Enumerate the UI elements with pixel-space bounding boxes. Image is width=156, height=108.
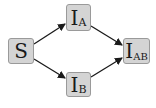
edge-ia-to-iab	[91, 26, 122, 45]
node-ia: IA	[66, 4, 91, 31]
node-ib-label: I	[71, 75, 79, 95]
node-ib: IB	[66, 72, 91, 97]
node-s: S	[8, 38, 34, 64]
node-ib-subscript: B	[78, 83, 86, 96]
node-iab: IAB	[123, 38, 150, 64]
edge-s-to-ib	[34, 59, 65, 78]
node-s-label: S	[14, 41, 28, 61]
edge-s-to-ia	[34, 24, 65, 44]
node-iab-subscript: AB	[133, 51, 148, 62]
edge-ib-to-iab	[91, 58, 122, 77]
node-iab-label: I	[125, 41, 133, 61]
node-ia-subscript: A	[78, 16, 86, 29]
